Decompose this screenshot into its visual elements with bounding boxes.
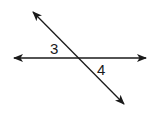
intersecting-lines-diagram [0, 0, 160, 114]
angle-4-label: 4 [97, 62, 105, 77]
angle-3-label: 3 [50, 41, 58, 56]
